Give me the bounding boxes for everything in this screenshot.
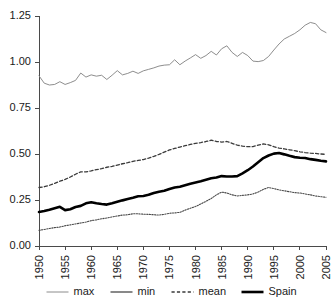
chart-figure: 0.000.250.500.751.001.25 195019551960196… [0,0,335,307]
x-tick-label: 1960 [85,255,97,279]
line-chart: 0.000.250.500.751.001.25 195019551960196… [0,0,335,307]
series-line-mean [39,140,326,187]
legend-label-mean: mean [199,285,227,297]
series-line-max [39,22,326,85]
x-tick-label: 1970 [137,255,149,279]
y-tick-label: 0.75 [10,101,31,113]
x-tick-label: 1955 [59,255,71,279]
legend-label-min: min [138,285,156,297]
x-axis: 1950195519601965197019751980198519901995… [33,246,332,279]
x-tick-label: 1985 [216,255,228,279]
x-tick-label: 1995 [268,255,280,279]
x-tick-label: 1975 [163,255,175,279]
x-tick-label: 1990 [242,255,254,279]
series-line-spain [39,153,326,212]
x-tick-label: 2000 [294,255,306,279]
legend-label-spain: Spain [269,285,297,297]
y-tick-label: 1.25 [10,9,31,21]
x-tick-label: 1950 [33,255,45,279]
x-tick-label: 1965 [111,255,123,279]
legend-label-max: max [74,285,95,297]
y-tick-label: 0.25 [10,193,31,205]
y-tick-label: 0.50 [10,147,31,159]
y-axis: 0.000.250.500.751.001.25 [10,9,40,251]
x-tick-label: 2005 [320,255,332,279]
y-tick-label: 1.00 [10,55,31,67]
y-tick-label: 0.00 [10,239,31,251]
chart-legend: maxminmeanSpain [47,285,297,297]
series-line-min [39,187,326,230]
x-tick-label: 1980 [190,255,202,279]
series-layer [39,22,326,230]
